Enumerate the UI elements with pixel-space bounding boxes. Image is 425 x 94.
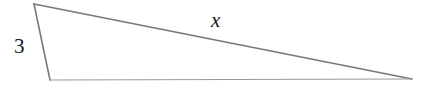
triangle-edge-hypotenuse (34, 4, 412, 79)
triangle-edge-left (34, 4, 50, 80)
triangle-edge-base (50, 79, 412, 80)
triangle-figure: 3 x (0, 0, 425, 94)
side-label-short: 3 (14, 36, 25, 57)
side-label-hypotenuse: x (211, 10, 220, 31)
